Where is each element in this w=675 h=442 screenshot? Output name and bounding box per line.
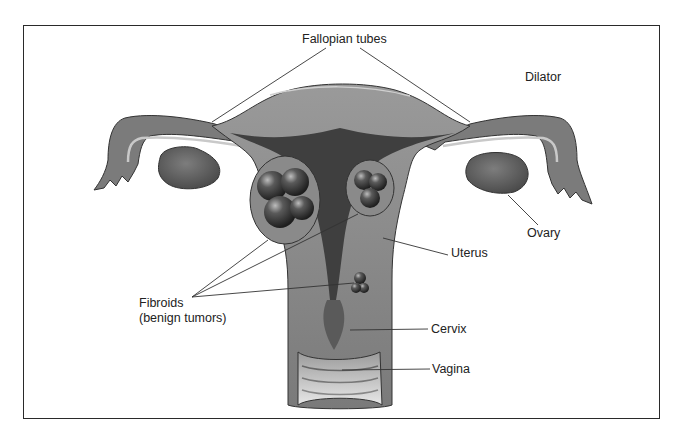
uterus-illustration bbox=[0, 0, 675, 442]
label-vagina: Vagina bbox=[432, 362, 470, 377]
label-uterus: Uterus bbox=[451, 246, 488, 261]
right-ovary bbox=[466, 153, 528, 194]
label-cervix: Cervix bbox=[431, 322, 466, 337]
vagina bbox=[298, 352, 382, 405]
label-fibroids: Fibroids bbox=[139, 296, 183, 311]
label-fallopian-tubes: Fallopian tubes bbox=[302, 32, 387, 47]
label-dilator: Dilator bbox=[525, 70, 561, 85]
fibroid-large bbox=[250, 156, 320, 244]
left-ovary bbox=[158, 147, 219, 189]
label-fibroids-subtitle: (benign tumors) bbox=[139, 311, 227, 326]
label-ovary: Ovary bbox=[527, 226, 560, 241]
fibroid-medium bbox=[346, 160, 394, 216]
